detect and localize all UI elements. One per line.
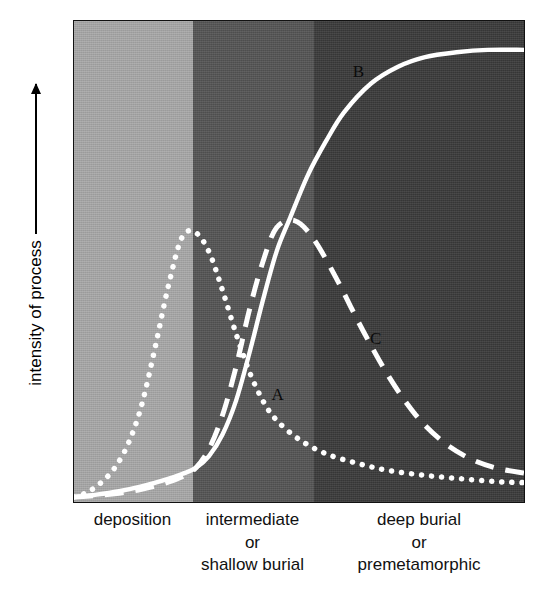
curve-c-path (74, 220, 524, 497)
curve-b-path (74, 50, 524, 497)
x-axis: deposition intermediate or shallow buria… (73, 506, 525, 596)
x-axis-group-deposition: deposition (73, 506, 192, 532)
curve-a-path (74, 231, 524, 497)
curves-layer (74, 21, 524, 502)
x-axis-label-line: deep burial (313, 509, 525, 532)
plot-area: A B C (73, 20, 525, 503)
x-axis-label-line: premetamorphic (313, 554, 525, 577)
x-axis-label-line: or (313, 532, 525, 555)
x-axis-group-intermediate: intermediate or shallow burial (192, 506, 313, 577)
x-axis-label-line: shallow burial (192, 554, 313, 577)
x-axis-label-line: or (192, 532, 313, 555)
y-axis-label: intensity of process (26, 240, 46, 386)
x-axis-label-line: deposition (73, 509, 192, 532)
y-axis: intensity of process (0, 20, 72, 503)
up-arrow-icon (29, 84, 43, 234)
curve-label-c: C (370, 330, 381, 347)
curve-label-b: B (353, 63, 364, 80)
figure-container: intensity of process A B C deposition in… (0, 0, 549, 602)
x-axis-label-line: intermediate (192, 509, 313, 532)
curve-label-a: A (271, 386, 283, 403)
x-axis-group-deep-burial: deep burial or premetamorphic (313, 506, 525, 577)
